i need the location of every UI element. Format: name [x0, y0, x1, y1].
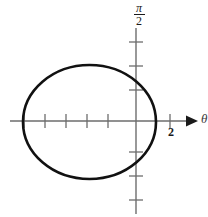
- plot-canvas: [0, 0, 208, 217]
- horizontal-axis-arrowhead: [186, 116, 198, 127]
- angle-variable-label: θ: [201, 112, 207, 125]
- radial-tick-label-2: 2: [164, 126, 178, 138]
- polar-graph-figure: π 2 2 θ: [0, 0, 208, 217]
- fraction-numerator: π: [128, 2, 150, 14]
- fraction-denominator: 2: [128, 15, 150, 27]
- vertical-axis-label-pi-over-two: π 2: [128, 2, 150, 27]
